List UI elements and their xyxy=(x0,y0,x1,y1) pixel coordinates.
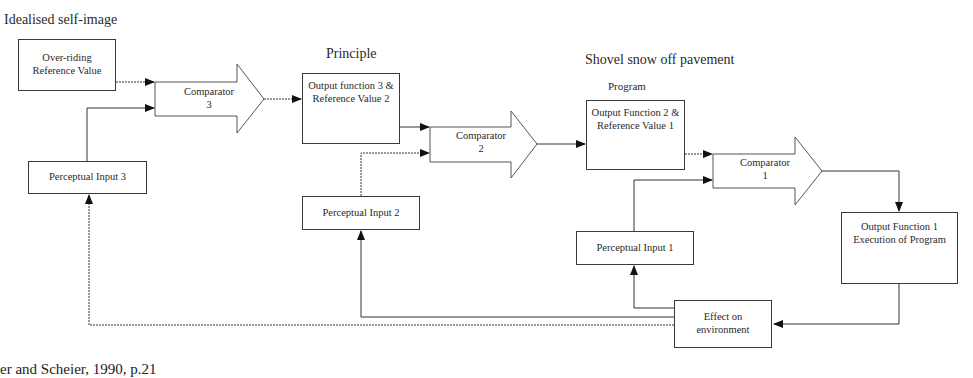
overriding-reference-value-box: Over-riding Reference Value xyxy=(18,39,116,91)
citation-caption: er and Scheier, 1990, p.21 xyxy=(0,361,156,378)
comparator-2-label: Comparator 2 xyxy=(440,130,522,155)
perceptual-input-3-box: Perceptual Input 3 xyxy=(28,161,147,194)
shovel-snow-label: Shovel snow off pavement xyxy=(585,52,734,68)
output-function-3-box: Output function 3 & Reference Value 2 xyxy=(302,73,400,144)
principle-label: Principle xyxy=(326,46,377,62)
idealised-self-image-label: Idealised self-image xyxy=(4,12,117,28)
comparator-1-name: Comparator xyxy=(724,157,806,170)
comparator-1-number: 1 xyxy=(724,170,806,183)
comparator-3-number: 3 xyxy=(168,99,250,112)
perceptual-input-1-box: Perceptual Input 1 xyxy=(576,231,694,265)
comparator-2-number: 2 xyxy=(440,143,522,156)
comparator-1-label: Comparator 1 xyxy=(724,157,806,182)
comparator-3-label: Comparator 3 xyxy=(168,86,250,111)
perceptual-input-2-box: Perceptual Input 2 xyxy=(302,196,420,230)
program-label: Program xyxy=(608,80,646,92)
effect-on-environment-box: Effect on environment xyxy=(674,300,772,348)
output-function-2-box: Output Function 2 & Reference Value 1 xyxy=(586,100,685,170)
comparator-2-name: Comparator xyxy=(440,130,522,143)
comparator-3-name: Comparator xyxy=(168,86,250,99)
output-function-1-box: Output Function 1 Execution of Program xyxy=(841,212,958,284)
